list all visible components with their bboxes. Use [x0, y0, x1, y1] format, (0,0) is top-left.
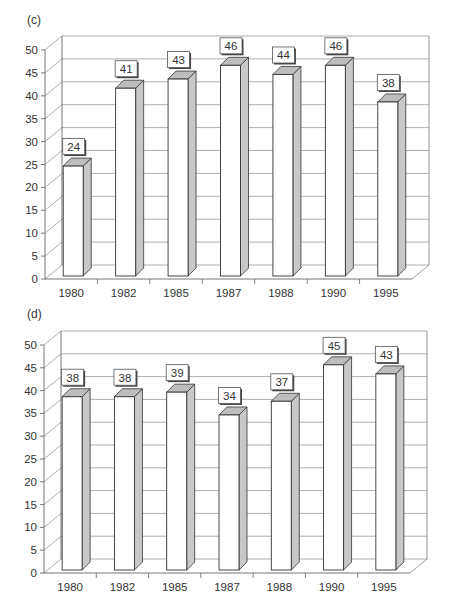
y-tick-label: 15 [25, 204, 38, 216]
gridline-side [44, 331, 61, 345]
y-tick-label: 30 [25, 136, 38, 148]
svg-text:38: 38 [382, 77, 395, 89]
y-tick-label: 40 [25, 90, 38, 102]
chart-panel-c: (c) 051015202530354045501980241982411985… [0, 0, 451, 300]
bar-1987 [221, 57, 249, 276]
svg-text:34: 34 [223, 390, 236, 402]
bar-1988 [271, 393, 299, 570]
svg-text:46: 46 [329, 40, 342, 52]
bar-1995 [378, 94, 406, 276]
x-tick-label: 1995 [371, 581, 397, 593]
gridline-side [44, 536, 61, 550]
bar-1988 [273, 66, 301, 276]
data-label: 24 [63, 139, 87, 157]
y-tick-label: 50 [24, 339, 37, 351]
data-label: 38 [114, 369, 138, 387]
gridline-side [45, 196, 62, 210]
bar-1980 [62, 389, 90, 570]
data-label: 46 [325, 38, 349, 56]
svg-text:37: 37 [275, 376, 288, 388]
gridline-side [44, 468, 61, 482]
y-tick-label: 5 [31, 544, 37, 556]
x-tick-label: 1982 [110, 581, 136, 593]
x-tick-label: 1988 [266, 581, 292, 593]
data-label: 43 [168, 52, 192, 69]
y-tick-label: 5 [32, 250, 38, 262]
svg-text:43: 43 [172, 54, 185, 66]
y-tick-label: 10 [25, 227, 38, 239]
gridline-side [44, 377, 61, 391]
x-tick-label: 1985 [162, 581, 188, 593]
svg-text:45: 45 [328, 340, 341, 352]
gridline-side [44, 491, 61, 505]
data-label: 41 [115, 61, 138, 79]
y-tick-label: 30 [24, 430, 37, 442]
svg-text:46: 46 [225, 40, 238, 52]
bar-1982 [114, 389, 142, 570]
gridline-side [45, 219, 62, 233]
gridline-side [45, 128, 62, 142]
svg-text:41: 41 [120, 63, 133, 75]
y-tick-label: 25 [25, 159, 38, 171]
data-label: 46 [220, 38, 244, 56]
y-tick-label: 45 [24, 362, 37, 374]
gridline-side [44, 422, 61, 436]
svg-text:24: 24 [67, 141, 80, 153]
gridline-side [45, 242, 62, 256]
y-tick-label: 40 [24, 385, 37, 397]
x-tick-label: 1990 [319, 581, 345, 593]
gridline-side [44, 399, 61, 413]
gridline-side [44, 559, 61, 573]
bar-1985 [168, 71, 196, 276]
y-tick-label: 25 [24, 453, 37, 465]
data-label: 38 [62, 369, 85, 387]
data-label: 38 [377, 74, 401, 92]
gridline-side [44, 513, 61, 527]
gridline-side [44, 354, 61, 368]
gridline-side [45, 173, 62, 187]
y-tick-label: 0 [32, 273, 38, 285]
gridline-side [45, 36, 62, 50]
data-label: 39 [166, 365, 190, 383]
y-tick-label: 0 [31, 567, 37, 579]
gridline-side [45, 265, 62, 279]
bar-1980 [63, 158, 91, 276]
y-tick-label: 45 [25, 67, 38, 79]
y-tick-label: 35 [24, 407, 37, 419]
bar-1990 [324, 357, 352, 570]
bar-1987 [219, 407, 247, 570]
data-label: 34 [219, 387, 243, 405]
y-tick-label: 35 [25, 113, 38, 125]
chart-panel-d: (d) 051015202530354045501980381982381985… [0, 296, 451, 605]
gridline-side [45, 105, 62, 119]
y-tick-label: 20 [25, 181, 38, 193]
y-tick-label: 50 [25, 44, 38, 56]
data-label: 45 [323, 337, 347, 355]
svg-text:44: 44 [277, 49, 290, 61]
bar-chart-d: 0510152025303540455019803819823819853919… [0, 296, 451, 605]
y-tick-label: 15 [24, 499, 37, 511]
gridline-side [45, 59, 62, 73]
bar-1985 [167, 384, 195, 570]
x-tick-label: 1987 [214, 581, 240, 593]
bar-chart-c: 0510152025303540455019802419824119854319… [0, 0, 451, 300]
bar-1990 [325, 57, 353, 276]
data-label: 37 [271, 374, 295, 392]
x-tick-label: 1980 [57, 581, 83, 593]
bar-1982 [116, 80, 144, 276]
gridline-side [45, 82, 62, 96]
y-tick-label: 10 [24, 521, 37, 533]
gridline-side [44, 445, 61, 459]
bar-1995 [376, 366, 404, 570]
data-label: 43 [375, 346, 399, 364]
svg-text:43: 43 [380, 349, 393, 361]
svg-text:39: 39 [171, 367, 184, 379]
svg-text:38: 38 [66, 372, 79, 384]
gridline-side [45, 151, 62, 165]
data-label: 44 [272, 47, 296, 64]
svg-text:38: 38 [119, 372, 132, 384]
y-tick-label: 20 [24, 476, 37, 488]
